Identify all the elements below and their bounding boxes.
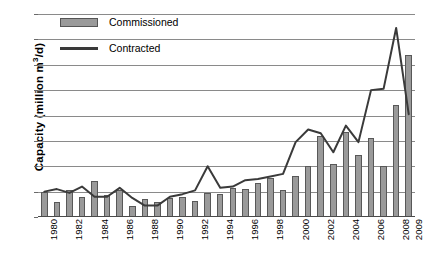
x-tick-label-1988: 1988 — [149, 219, 160, 240]
x-tick-label-1982: 1982 — [73, 219, 84, 240]
legend-item-contracted: Contracted — [60, 42, 178, 54]
x-tick-label-1990: 1990 — [174, 219, 185, 240]
x-axis-labels: 1980198219841986198819901992199419961998… — [38, 219, 415, 268]
x-tick-label-2008: 2008 — [400, 219, 411, 240]
legend-line-swatch-icon — [60, 47, 98, 50]
x-tick-label-1984: 1984 — [99, 219, 110, 240]
x-axis-line — [38, 216, 415, 217]
legend-item-commissioned: Commissioned — [60, 16, 178, 28]
x-tick-label-1986: 1986 — [124, 219, 135, 240]
legend-label-commissioned: Commissioned — [109, 16, 178, 28]
x-tick-label-1980: 1980 — [48, 219, 59, 240]
x-tick-label-1996: 1996 — [249, 219, 260, 240]
x-tick-label-1998: 1998 — [274, 219, 285, 240]
y-tick-mark-0 — [34, 217, 38, 218]
x-tick-label-1992: 1992 — [199, 219, 210, 240]
x-tick-label-2000: 2000 — [300, 219, 311, 240]
x-tick-label-2009: 2009 — [413, 219, 423, 240]
capacity-chart: Capacity (million m3/d) 012345678 198019… — [0, 0, 423, 268]
x-tick-label-1994: 1994 — [224, 219, 235, 240]
legend-label-contracted: Contracted — [109, 42, 160, 54]
x-tick-label-2002: 2002 — [325, 219, 336, 240]
x-tick-label-2006: 2006 — [375, 219, 386, 240]
legend-bar-swatch-icon — [60, 18, 98, 27]
chart-legend: Commissioned Contracted — [60, 16, 178, 68]
x-tick-label-2004: 2004 — [350, 219, 361, 240]
